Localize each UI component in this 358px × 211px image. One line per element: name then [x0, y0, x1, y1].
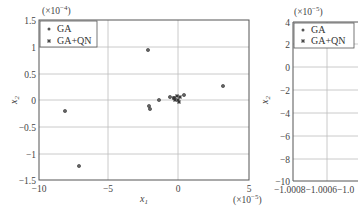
left-legend: GA GA+QN [40, 21, 97, 47]
svg-text:−1: −1 [26, 150, 36, 160]
svg-text:−4: −4 [280, 109, 290, 119]
left-chart: 1.5 1 0.5 0 −0.5 −1 −1.5 −10 −5 0 5 (×10… [8, 4, 262, 206]
svg-text:−5: −5 [103, 184, 113, 194]
svg-text:0: 0 [176, 184, 181, 194]
legend-ga-label: GA [57, 23, 72, 34]
left-x-multiplier: (×10−5) [233, 193, 262, 206]
svg-text:−10: −10 [32, 184, 47, 194]
legend-ga-marker-icon [48, 28, 51, 31]
svg-text:−8: −8 [280, 155, 290, 165]
svg-text:4: 4 [285, 18, 290, 28]
svg-text:−6: −6 [280, 132, 290, 142]
left-x-axis-label: x1 [139, 193, 148, 206]
svg-text:−2: −2 [280, 86, 290, 96]
svg-text:0: 0 [31, 96, 36, 106]
svg-text:0.5: 0.5 [24, 70, 36, 80]
svg-text:1.5: 1.5 [24, 16, 36, 26]
right-x-ticks: −1.0008−1.0006−1.0 [274, 185, 354, 195]
left-series-gaqn [172, 94, 182, 104]
right-y-axis-label: x2 [259, 96, 272, 105]
right-chart: 4 2 0 −2 −4 −6 −8 −10 −1.0008−1.0006−1.0… [259, 5, 358, 195]
left-y-axis-label: x2 [8, 96, 21, 105]
right-y-multiplier: (×10−5) [294, 5, 323, 18]
left-series-ga [63, 48, 224, 167]
legend-gaqn-marker-icon [301, 39, 305, 43]
svg-text:0: 0 [285, 63, 290, 73]
right-y-ticks: 4 2 0 −2 −4 −6 −8 −10 [275, 18, 290, 187]
legend-ga-label: GA [311, 24, 326, 35]
figure: 1.5 1 0.5 0 −0.5 −1 −1.5 −10 −5 0 5 (×10… [0, 0, 358, 211]
legend-gaqn-marker-icon [47, 39, 51, 43]
legend-gaqn-label: GA+QN [311, 35, 346, 46]
legend-ga-marker-icon [302, 29, 305, 32]
right-legend: GA GA+QN [294, 23, 354, 48]
left-y-multiplier: (×10−4) [42, 4, 71, 17]
svg-text:−0.5: −0.5 [19, 123, 36, 133]
legend-gaqn-label: GA+QN [57, 35, 92, 46]
left-y-ticks: 1.5 1 0.5 0 −0.5 −1 −1.5 [19, 16, 36, 186]
svg-text:1: 1 [31, 43, 36, 53]
svg-text:2: 2 [285, 40, 290, 50]
